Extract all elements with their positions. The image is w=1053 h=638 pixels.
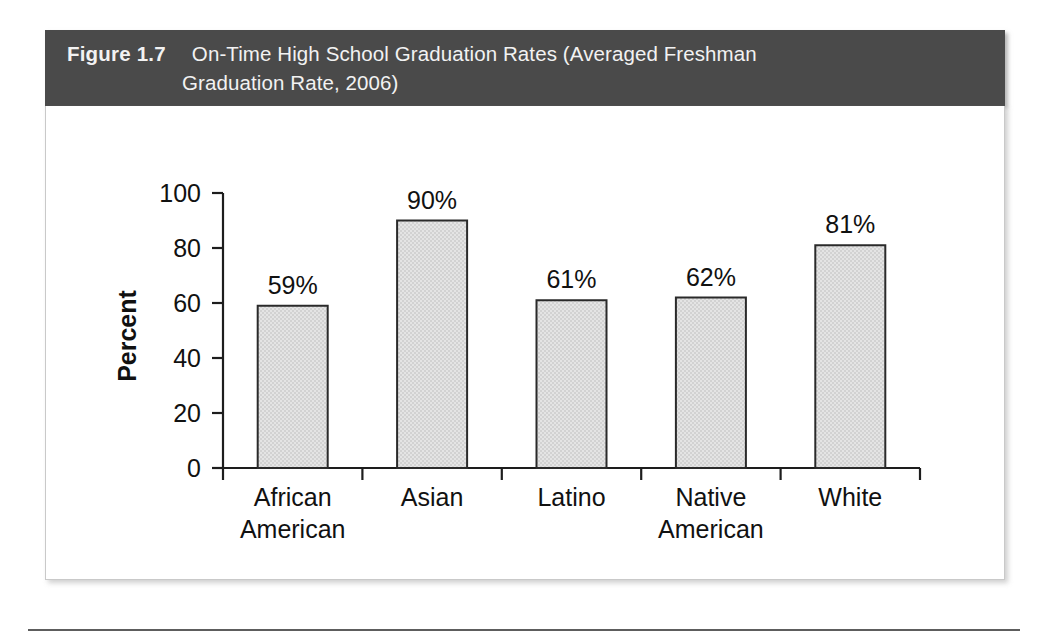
bar xyxy=(397,221,467,469)
bar xyxy=(258,306,328,468)
bar xyxy=(537,300,607,468)
y-axis-tick-label: 60 xyxy=(173,289,201,317)
x-axis-category-label: Latino xyxy=(537,483,605,511)
figure-container: Figure 1.7On-Time High School Graduation… xyxy=(0,0,1053,638)
y-axis-tick-label: 0 xyxy=(187,454,201,482)
bar-value-label: 62% xyxy=(686,263,736,291)
y-axis-tick-label: 20 xyxy=(173,399,201,427)
bar-value-label: 90% xyxy=(407,186,457,214)
bar-value-label: 59% xyxy=(268,271,318,299)
bar-value-label: 81% xyxy=(825,210,875,238)
y-axis-label: Percent xyxy=(113,289,141,381)
y-axis-tick-label: 40 xyxy=(173,344,201,372)
x-axis-category-label: Asian xyxy=(401,483,464,511)
bar xyxy=(815,245,885,468)
page-bottom-rule xyxy=(28,629,1020,631)
x-axis-category-label: Native xyxy=(675,483,746,511)
x-axis-category-label: American xyxy=(658,515,764,543)
y-axis-tick-label: 100 xyxy=(159,179,201,207)
bar-chart: 020406080100Percent59%AfricanAmerican90%… xyxy=(0,0,1053,638)
bar-value-label: 61% xyxy=(546,265,596,293)
y-axis-tick-label: 80 xyxy=(173,234,201,262)
x-axis-category-label: White xyxy=(818,483,882,511)
bar xyxy=(676,298,746,469)
x-axis-category-label: American xyxy=(240,515,346,543)
x-axis-category-label: African xyxy=(254,483,332,511)
